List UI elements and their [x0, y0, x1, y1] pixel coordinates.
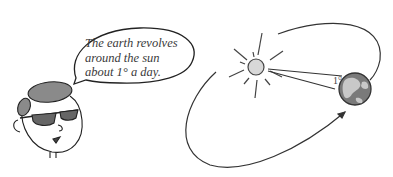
sunglasses-icon: [32, 113, 56, 125]
sun-icon: [229, 33, 283, 98]
speech-bubble-text: The earth revolves around the sun about …: [85, 36, 195, 80]
bubble-line-2: around the sun: [85, 51, 195, 66]
earth-icon: [339, 73, 371, 105]
diagram-svg: [0, 0, 393, 177]
bubble-line-1: The earth revolves: [85, 36, 195, 51]
character: [14, 80, 82, 158]
illustration: The earth revolves around the sun about …: [0, 0, 393, 177]
angle-label: 1°: [333, 75, 342, 86]
angle-lines: [268, 69, 342, 89]
bubble-line-3: about 1° a day.: [85, 65, 195, 80]
